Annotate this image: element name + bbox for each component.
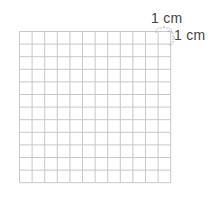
grid [19,31,173,187]
height-label: 1 cm [174,28,206,42]
width-label: 1 cm [151,11,183,25]
